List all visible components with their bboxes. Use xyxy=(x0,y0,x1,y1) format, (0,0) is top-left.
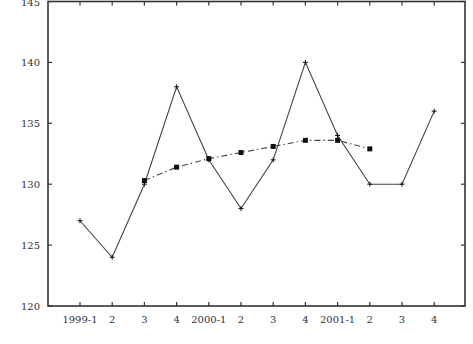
plus-marker-icon xyxy=(400,182,405,187)
square-marker-icon xyxy=(206,156,211,161)
series-line-moving-average xyxy=(144,140,369,180)
plot-border xyxy=(48,2,465,307)
plus-marker-icon xyxy=(174,84,179,89)
plus-marker-icon xyxy=(303,60,308,65)
x-tick-label: 3 xyxy=(270,314,276,325)
plus-marker-icon xyxy=(432,109,437,114)
square-marker-icon xyxy=(174,165,179,170)
x-axis: 1999-12342000-12342001-1234 xyxy=(62,2,437,326)
y-tick-label: 135 xyxy=(21,118,40,129)
square-marker-icon xyxy=(239,150,244,155)
square-marker-icon xyxy=(303,138,308,143)
x-tick-label: 2 xyxy=(238,314,244,325)
x-tick-label: 2000-1 xyxy=(191,314,226,325)
y-tick-label: 120 xyxy=(21,301,40,312)
x-tick-label: 3 xyxy=(141,314,147,325)
x-tick-label: 2 xyxy=(109,314,115,325)
y-tick-label: 125 xyxy=(21,240,40,251)
x-tick-label: 1999-1 xyxy=(62,314,97,325)
x-tick-label: 2 xyxy=(367,314,373,325)
x-tick-label: 4 xyxy=(302,314,308,325)
square-marker-icon xyxy=(142,178,147,183)
y-tick-label: 130 xyxy=(21,179,40,190)
square-marker-icon xyxy=(335,138,340,143)
series-group xyxy=(78,60,437,260)
x-tick-label: 4 xyxy=(431,314,437,325)
x-tick-label: 3 xyxy=(399,314,405,325)
square-marker-icon xyxy=(271,144,276,149)
line-chart: 120125130135140145 1999-12342000-1234200… xyxy=(0,0,473,344)
x-tick-label: 2001-1 xyxy=(320,314,355,325)
plot-frame xyxy=(48,2,465,307)
x-tick-label: 4 xyxy=(173,314,179,325)
series-line-actual xyxy=(80,62,434,257)
y-tick-label: 145 xyxy=(21,0,40,8)
y-tick-label: 140 xyxy=(21,57,40,68)
y-axis: 120125130135140145 xyxy=(21,0,465,312)
square-marker-icon xyxy=(367,146,372,151)
